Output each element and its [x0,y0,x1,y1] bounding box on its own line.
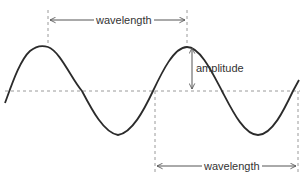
wave-diagram [0,0,303,176]
wavelength-top-label: wavelength [94,14,154,26]
wavelength-bottom-label: wavelength [202,160,262,172]
amplitude-label: amplitude [196,62,244,74]
